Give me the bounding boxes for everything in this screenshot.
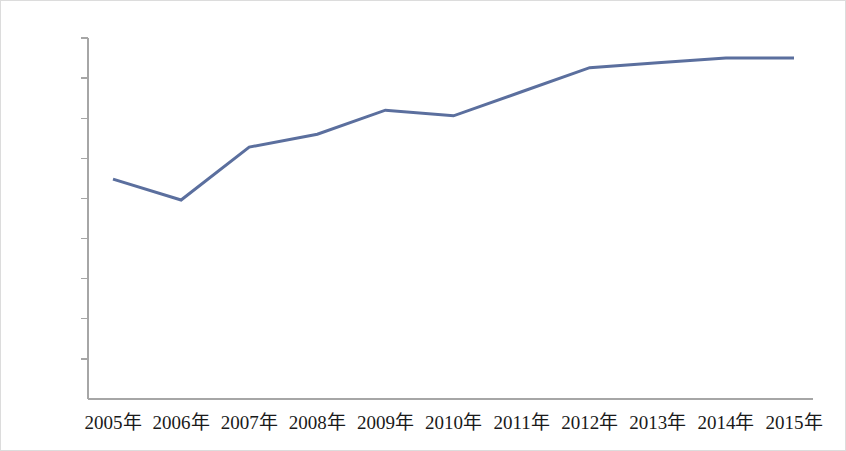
x-axis-tick-label: 2013年 [629, 413, 686, 432]
x-axis-tick-label: 2010年 [425, 413, 482, 432]
x-axis-labels: 2005年2006年2007年2008年2009年2010年2011年2012年… [1, 1, 846, 451]
x-axis-tick-label: 2007年 [221, 413, 278, 432]
x-axis-tick-label: 2008年 [289, 413, 346, 432]
x-axis-tick-label: 2006年 [153, 413, 210, 432]
line-chart-figure: 4.5%4.0%3.5%3.0%2.5%2.0%1.5%1.0%0.5%0.0%… [0, 0, 846, 451]
x-axis-tick-label: 2005年 [85, 413, 142, 432]
x-axis-tick-label: 2009年 [357, 413, 414, 432]
x-axis-tick-label: 2011年 [493, 413, 549, 432]
x-axis-tick-label: 2015年 [766, 413, 823, 432]
x-axis-tick-label: 2012年 [561, 413, 618, 432]
x-axis-tick-label: 2014年 [697, 413, 754, 432]
